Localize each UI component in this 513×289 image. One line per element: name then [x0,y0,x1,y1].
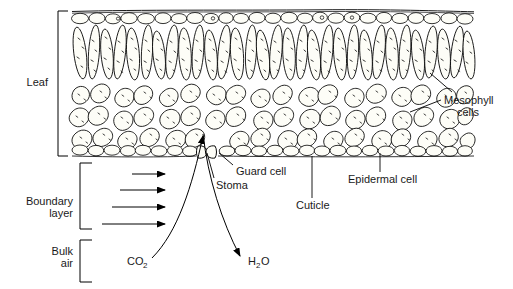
svg-text:H: H [248,255,256,267]
bulk-air-label-line2: air [61,257,74,269]
stoma-label: Stoma [216,179,249,191]
svg-text:Mesophyll: Mesophyll [444,94,494,106]
boundary-layer-label-line2: layer [49,207,73,219]
diagram-canvas: Leaf Boundary layer Bulk air CO 2 H 2 O … [0,0,513,289]
palisade-mesophyll [71,25,477,81]
bulk-air-label-line1: Bulk [52,245,74,257]
svg-text:cells: cells [457,106,480,118]
epidermal-cell-label: Epidermal cell [348,173,417,185]
leaf-bracket-label: Leaf [27,76,49,88]
svg-text:CO: CO [127,255,144,267]
guard-cell-label: Guard cell [236,165,286,177]
upper-epidermis [72,12,474,24]
leaf-cross-section-figure: Leaf Boundary layer Bulk air CO 2 H 2 O … [0,0,513,289]
boundary-layer-label-line1: Boundary [26,195,74,207]
cuticle-label: Cuticle [296,199,330,211]
svg-text:O: O [261,255,270,267]
svg-text:2: 2 [143,261,148,270]
